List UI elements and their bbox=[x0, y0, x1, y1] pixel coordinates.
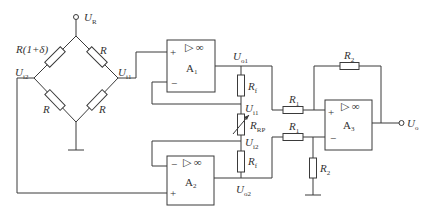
label-uo2: Uo2 bbox=[236, 183, 251, 198]
resistor-rf-top bbox=[238, 75, 245, 96]
supply-terminal bbox=[74, 15, 79, 20]
label-bottom-left: R bbox=[42, 103, 50, 115]
output-label: Uo bbox=[407, 117, 419, 132]
svg-text:−: − bbox=[171, 77, 177, 89]
svg-text:+: + bbox=[328, 106, 334, 118]
label-top-right: R bbox=[99, 44, 107, 56]
resistor-r2-ground bbox=[310, 158, 317, 178]
resistor-r1-top bbox=[283, 107, 303, 114]
svg-text:▷ ∞: ▷ ∞ bbox=[183, 156, 202, 168]
svg-text:▷ ∞: ▷ ∞ bbox=[341, 100, 360, 112]
label-ui1-bridge: Ui1 bbox=[118, 66, 132, 81]
svg-text:+: + bbox=[170, 187, 176, 199]
svg-text:+: + bbox=[170, 46, 176, 58]
label-ui2: Ui2 bbox=[245, 136, 259, 151]
label-uo1: Uo1 bbox=[233, 50, 248, 65]
wheatstone-bridge: UR R(1+δ) R R R Ui2 Ui1 bbox=[15, 11, 132, 150]
svg-text:−: − bbox=[330, 132, 336, 144]
svg-text:R2: R2 bbox=[319, 162, 331, 177]
svg-text:▷ ∞: ▷ ∞ bbox=[185, 41, 204, 53]
op-amp-a2: − + ▷ ∞ A2 bbox=[167, 156, 214, 205]
resistor-r1-bottom bbox=[283, 134, 303, 141]
label-top-left: R(1+δ) bbox=[15, 43, 48, 56]
svg-text:R1: R1 bbox=[288, 120, 300, 135]
svg-text:−: − bbox=[171, 158, 177, 170]
supply-label: UR bbox=[84, 11, 97, 26]
output-terminal bbox=[399, 121, 404, 126]
svg-text:RRP: RRP bbox=[249, 119, 265, 134]
op-amp-a1: + − ▷ ∞ A1 bbox=[167, 40, 215, 92]
label-bottom-right: R bbox=[98, 103, 106, 115]
resistor-r2-feedback bbox=[340, 63, 359, 70]
resistor-rf-bottom bbox=[238, 151, 245, 172]
circuit-diagram: UR R(1+δ) R R R Ui2 Ui1 + − ▷ ∞ A1 Uo1 bbox=[0, 0, 430, 219]
svg-text:R2: R2 bbox=[343, 49, 355, 64]
svg-text:R1: R1 bbox=[288, 93, 300, 108]
op-amp-a3: + − ▷ ∞ A3 bbox=[325, 100, 372, 150]
label-ui1: Ui1 bbox=[245, 102, 259, 117]
svg-text:Rf: Rf bbox=[247, 155, 258, 170]
svg-text:Rf: Rf bbox=[247, 80, 258, 95]
